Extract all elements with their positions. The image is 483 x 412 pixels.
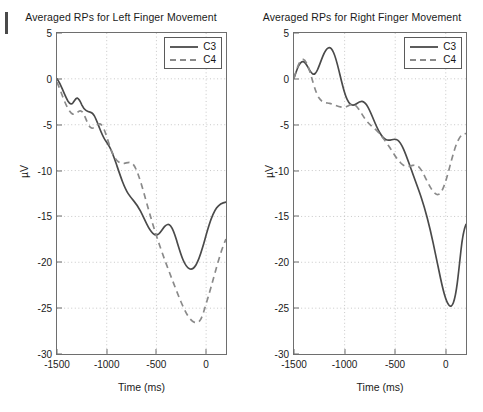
ytick-label-right: -25 — [275, 303, 289, 314]
ytick-label-right: -20 — [275, 257, 289, 268]
xtick-label-right: -500 — [385, 359, 405, 370]
x-axis-label-left: Time (ms) — [56, 381, 227, 393]
ytick-mark — [294, 216, 299, 217]
ytick-label-right: 0 — [283, 73, 289, 84]
ytick-label-left: -30 — [38, 349, 52, 360]
legend-key-solid-icon — [169, 43, 199, 51]
plot-canvas-right — [294, 33, 466, 354]
legend-label-c4: C4 — [443, 54, 456, 65]
legend-key-dashed-icon — [409, 56, 439, 64]
xtick-mark — [294, 349, 295, 354]
xtick-label-right: -1500 — [281, 359, 307, 370]
ytick-mark — [57, 33, 62, 34]
chart-title-left: Averaged RPs for Left Finger Movement — [0, 11, 242, 23]
xtick-mark — [57, 349, 58, 354]
ytick-mark — [294, 78, 299, 79]
ytick-mark — [57, 262, 62, 263]
ytick-mark — [57, 308, 62, 309]
ytick-mark — [57, 124, 62, 125]
legend-left: C3 C4 — [164, 37, 222, 69]
xtick-mark — [106, 349, 107, 354]
ytick-mark — [57, 170, 62, 171]
legend-item-c3: C3 — [409, 41, 456, 52]
xtick-mark — [445, 349, 446, 354]
ytick-label-right: 5 — [283, 28, 289, 39]
series-line-c4-left — [57, 82, 226, 323]
xtick-label-left: -1000 — [94, 359, 120, 370]
xtick-label-left: 0 — [203, 359, 209, 370]
legend-label-c3: C3 — [203, 41, 216, 52]
panel-left-finger-movement: Averaged RPs for Left Finger Movement µV — [0, 0, 242, 412]
legend-key-solid-icon — [409, 43, 439, 51]
series-line-c3-right — [294, 48, 466, 307]
ytick-label-left: -25 — [38, 303, 52, 314]
ytick-mark — [294, 308, 299, 309]
ytick-mark — [294, 124, 299, 125]
ytick-label-right: -10 — [275, 165, 289, 176]
x-axis-label-right: Time (ms) — [293, 381, 467, 393]
ytick-label-left: -10 — [38, 165, 52, 176]
xtick-mark — [344, 349, 345, 354]
chart-title-right: Averaged RPs for Right Finger Movement — [241, 11, 483, 23]
ytick-mark — [294, 354, 299, 355]
legend-right: C3 C4 — [404, 37, 462, 69]
series-line-c3-left — [57, 79, 226, 269]
xtick-label-left: -1500 — [44, 359, 70, 370]
figure-page: Averaged RPs for Left Finger Movement µV — [0, 0, 483, 412]
ytick-label-left: 0 — [46, 73, 52, 84]
xtick-label-left: -500 — [146, 359, 166, 370]
ytick-label-left: 5 — [46, 28, 52, 39]
ytick-mark — [294, 170, 299, 171]
ytick-mark — [57, 78, 62, 79]
plot-canvas-left — [57, 33, 226, 354]
legend-label-c3: C3 — [443, 41, 456, 52]
ytick-label-right: -15 — [275, 211, 289, 222]
plot-area-left: 5 0 -5 -10 -15 -20 -25 -30 -1500 -1000 -… — [56, 32, 227, 355]
xtick-mark — [206, 349, 207, 354]
ytick-mark — [57, 216, 62, 217]
gridlines-left — [57, 33, 226, 354]
ytick-mark — [57, 354, 62, 355]
ytick-label-right: -30 — [275, 349, 289, 360]
ytick-mark — [294, 262, 299, 263]
ytick-label-left: -15 — [38, 211, 52, 222]
xtick-mark — [395, 349, 396, 354]
series-line-c4-right — [294, 59, 466, 194]
legend-item-c4: C4 — [169, 54, 216, 65]
plot-area-right: 5 0 -5 -10 -15 -20 -25 -30 -1500 -1000 -… — [293, 32, 467, 355]
panel-right-finger-movement: Averaged RPs for Right Finger Movement µ… — [241, 0, 483, 412]
ytick-label-right: -5 — [280, 119, 289, 130]
legend-item-c4: C4 — [409, 54, 456, 65]
y-axis-label-right: µV — [263, 165, 275, 178]
xtick-mark — [156, 349, 157, 354]
legend-label-c4: C4 — [203, 54, 216, 65]
gridlines-right — [294, 33, 466, 354]
legend-item-c3: C3 — [169, 41, 216, 52]
ytick-label-left: -20 — [38, 257, 52, 268]
legend-key-dashed-icon — [169, 56, 199, 64]
ytick-label-left: -5 — [43, 119, 52, 130]
xtick-label-right: -1000 — [332, 359, 358, 370]
y-axis-label-left: µV — [18, 165, 30, 178]
xtick-label-right: 0 — [443, 359, 449, 370]
ytick-mark — [294, 33, 299, 34]
